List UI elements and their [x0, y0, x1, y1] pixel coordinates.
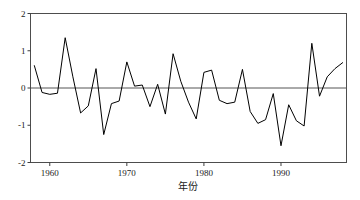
- data-series-group: [34, 38, 342, 146]
- x-axis-ticks: 1960197019801990: [41, 163, 291, 178]
- series-polyline: [34, 38, 342, 146]
- x-axis-title: 年份: [178, 180, 198, 192]
- y-tick-label: -1: [18, 120, 26, 130]
- chart-figure: -2-1012 1960197019801990 年份: [0, 0, 360, 200]
- y-tick-label: 0: [21, 83, 26, 93]
- x-tick-label: 1980: [195, 168, 214, 178]
- y-tick-label: 2: [21, 9, 26, 19]
- x-tick-label: 1970: [118, 168, 137, 178]
- x-tick-label: 1990: [272, 168, 291, 178]
- y-axis-ticks: -2-1012: [18, 9, 31, 168]
- line-chart: -2-1012 1960197019801990 年份: [0, 0, 360, 200]
- x-tick-label: 1960: [41, 168, 60, 178]
- y-tick-label: 1: [21, 46, 26, 56]
- y-tick-label: -2: [18, 158, 26, 168]
